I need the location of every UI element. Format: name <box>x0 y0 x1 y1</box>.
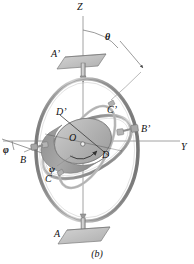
point-label-d-prime: D’ <box>56 107 67 117</box>
point-label-o: O <box>69 133 76 143</box>
gyroscope-drawing <box>0 0 194 264</box>
point-label-a: A <box>54 229 60 239</box>
phi-angle-label: φ <box>3 145 9 155</box>
figure-caption: (b) <box>0 248 194 259</box>
bottom-support-plate <box>58 227 110 244</box>
point-label-d: D <box>102 150 109 160</box>
point-label-b-prime: B’ <box>141 124 150 134</box>
center-point-o <box>81 142 85 146</box>
y-axis-label: Y <box>181 142 187 152</box>
point-label-b: B <box>20 155 26 165</box>
point-label-c-prime: C’ <box>107 105 117 115</box>
z-axis-label: Z <box>77 2 83 12</box>
theta-angle-label: θ <box>105 32 110 42</box>
point-label-a-prime: A’ <box>51 49 60 59</box>
point-label-c: C <box>45 174 52 184</box>
gyroscope-figure: Z Y θ φ ψ A’ A B B’ C C’ D D’ O (b) <box>0 0 194 264</box>
